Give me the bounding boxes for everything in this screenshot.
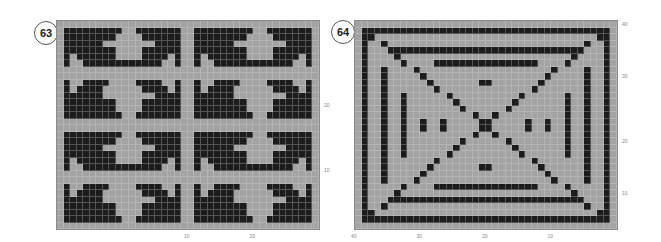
- chart-63-number: 63: [40, 27, 52, 39]
- axis-tick-label: 40: [622, 21, 628, 27]
- axis-tick-label: 20: [482, 233, 488, 239]
- chart-64-grid: [354, 20, 618, 230]
- chart-64-number: 64: [337, 26, 349, 38]
- grid-cell: [312, 223, 319, 230]
- axis-tick-label: 20: [622, 138, 628, 144]
- axis-tick-label: 40: [351, 233, 357, 239]
- axis-tick-label: 10: [324, 167, 330, 173]
- axis-tick-label: 10: [184, 233, 190, 239]
- axis-tick-label: 30: [417, 233, 423, 239]
- chart-64-badge: 64: [331, 20, 355, 44]
- axis-tick-label: 10: [548, 233, 554, 239]
- grid-cell: [610, 223, 617, 230]
- axis-tick-label: 20: [324, 102, 330, 108]
- axis-tick-label: 30: [622, 73, 628, 79]
- chart-63-grid: [56, 20, 320, 230]
- axis-tick-label: 20: [250, 233, 256, 239]
- axis-tick-label: 10: [622, 190, 628, 196]
- chart-63-badge: 63: [34, 21, 58, 45]
